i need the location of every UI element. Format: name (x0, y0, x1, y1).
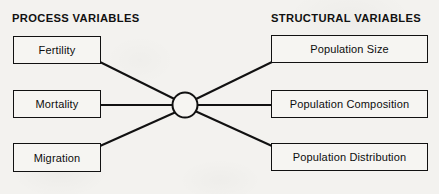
structural-variables-heading: STRUCTURAL VARIABLES (271, 12, 421, 24)
diagram-canvas: PROCESS VARIABLES STRUCTURAL VARIABLES F… (0, 0, 439, 194)
node-population-composition[interactable]: Population Composition (271, 90, 428, 118)
node-population-size[interactable]: Population Size (271, 35, 428, 63)
node-mortality-label: Mortality (36, 98, 79, 110)
node-population-composition-label: Population Composition (290, 98, 409, 110)
connector-migration-to-hub (100, 112, 176, 146)
connector-fertility-to-hub (100, 62, 176, 100)
connector-hub-to-population-distribution (195, 111, 272, 146)
node-population-size-label: Population Size (310, 43, 389, 55)
node-migration-label: Migration (34, 152, 81, 164)
node-fertility-label: Fertility (39, 44, 76, 56)
node-migration[interactable]: Migration (13, 143, 101, 172)
node-population-distribution-label: Population Distribution (293, 151, 407, 163)
connector-hub-to-population-size (195, 62, 272, 100)
node-fertility[interactable]: Fertility (13, 36, 101, 64)
process-variables-heading: PROCESS VARIABLES (12, 12, 140, 24)
node-mortality[interactable]: Mortality (13, 90, 101, 118)
node-population-distribution[interactable]: Population Distribution (271, 143, 428, 171)
central-junction-circle (173, 93, 198, 118)
